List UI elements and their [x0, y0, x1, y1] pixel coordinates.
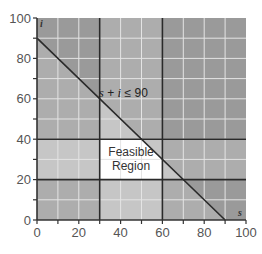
x-axis-label: s: [237, 207, 242, 218]
chart: 020406080100020406080100 s i s + i ≤ 90 …: [0, 0, 262, 254]
feasible-label-line1: Feasible: [108, 145, 154, 159]
x-tick-label: 0: [33, 225, 40, 240]
y-tick-label: 20: [17, 172, 31, 187]
x-tick-label: 100: [235, 225, 257, 240]
annot-plus: +: [104, 86, 118, 100]
y-axis-label: i: [40, 18, 43, 29]
annot-le: ≤: [121, 86, 134, 100]
y-tick-label: 100: [9, 11, 31, 26]
y-tick-label: 0: [24, 213, 31, 228]
x-tick-label: 80: [197, 225, 211, 240]
x-tick-label: 40: [113, 225, 127, 240]
constraint-annotation: s + i ≤ 90: [99, 85, 148, 100]
y-tick-label: 80: [17, 51, 31, 66]
feasible-label-line2: Region: [112, 159, 150, 173]
y-tick-label: 40: [17, 132, 31, 147]
y-tick-label: 60: [17, 91, 31, 106]
annot-90: 90: [135, 86, 149, 100]
x-tick-label: 20: [72, 225, 86, 240]
x-tick-label: 60: [155, 225, 169, 240]
